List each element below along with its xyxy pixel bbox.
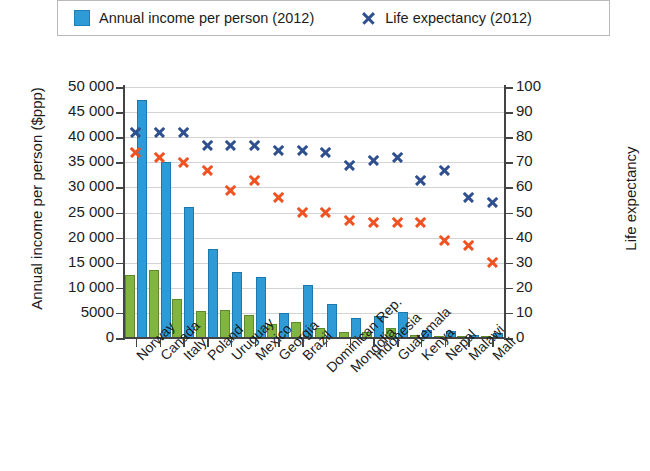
y-axis-left-line xyxy=(123,85,125,340)
y-axis-right-tick xyxy=(506,162,513,164)
y-axis-right-tick xyxy=(506,137,513,139)
marker-red-series xyxy=(153,151,166,164)
marker-red-series xyxy=(367,216,380,229)
y-axis-right-tick-label: 40 xyxy=(516,228,556,245)
y-axis-right-tick xyxy=(506,288,513,290)
y-axis-right-tick-label: 70 xyxy=(516,152,556,169)
marker-red-series xyxy=(224,183,237,196)
y-axis-left-tick-label: 35 000 xyxy=(34,152,114,169)
y-axis-left-tick-label: 40 000 xyxy=(34,127,114,144)
marker-life-expectancy xyxy=(153,126,166,139)
marker-life-expectancy xyxy=(296,143,309,156)
bar-green xyxy=(125,275,135,338)
marker-red-series xyxy=(201,163,214,176)
y-axis-left-tick xyxy=(116,313,123,315)
y-axis-left-tick-label: 45 000 xyxy=(34,102,114,119)
marker-life-expectancy xyxy=(248,138,261,151)
y-axis-left-tick xyxy=(116,187,123,189)
gridline xyxy=(124,213,504,214)
marker-life-expectancy xyxy=(319,146,332,159)
y-axis-right-tick-label: 10 xyxy=(516,303,556,320)
marker-life-expectancy xyxy=(343,158,356,171)
y-axis-left-tick-label: 10 000 xyxy=(34,278,114,295)
y-axis-right-tick-label: 80 xyxy=(516,127,556,144)
x-axis-tick xyxy=(350,339,352,347)
y-axis-right-tick-label: 60 xyxy=(516,177,556,194)
y-axis-left-tick xyxy=(116,213,123,215)
y-axis-right-tick-label: 0 xyxy=(516,328,556,345)
y-axis-left-tick-label: 20 000 xyxy=(34,228,114,245)
gridline xyxy=(124,187,504,188)
marker-red-series xyxy=(248,173,261,186)
marker-life-expectancy xyxy=(129,126,142,139)
y-axis-left-tick xyxy=(116,112,123,114)
y-axis-left-tick-label: 50 000 xyxy=(34,77,114,94)
y-axis-right-tick xyxy=(506,238,513,240)
y-axis-left-tick xyxy=(116,263,123,265)
y-axis-left-tick xyxy=(116,338,123,340)
marker-life-expectancy xyxy=(391,151,404,164)
marker-life-expectancy xyxy=(224,138,237,151)
marker-red-series xyxy=(272,191,285,204)
y-axis-right-tick-label: 50 xyxy=(516,203,556,220)
marker-life-expectancy xyxy=(367,153,380,166)
y-axis-right-tick-label: 30 xyxy=(516,253,556,270)
y-axis-left-tick-label: 0 xyxy=(34,328,114,345)
y-axis-right-tick xyxy=(506,213,513,215)
plot-wrapper: 50 00045 00040 00035 00030 00025 00020 0… xyxy=(0,0,650,471)
marker-red-series xyxy=(296,206,309,219)
y-axis-left-tick xyxy=(116,288,123,290)
marker-red-series xyxy=(319,206,332,219)
y-axis-right-tick-label: 90 xyxy=(516,102,556,119)
marker-life-expectancy xyxy=(272,143,285,156)
x-axis-tick xyxy=(160,339,162,347)
marker-life-expectancy xyxy=(201,138,214,151)
gridline xyxy=(124,288,504,289)
marker-red-series xyxy=(391,216,404,229)
y-axis-right-tick-label: 100 xyxy=(516,77,556,94)
bar-blue xyxy=(208,249,218,338)
chart-root: Annual income per person (2012) Life exp… xyxy=(0,0,650,471)
y-axis-right-tick xyxy=(506,313,513,315)
x-axis-tick xyxy=(326,339,328,347)
marker-red-series xyxy=(462,239,475,252)
marker-life-expectancy xyxy=(177,126,190,139)
y-axis-left-tick-label: 30 000 xyxy=(34,177,114,194)
y-axis-right-tick xyxy=(506,187,513,189)
y-axis-right-tick-label: 20 xyxy=(516,278,556,295)
y-axis-left-tick-label: 25 000 xyxy=(34,203,114,220)
bar-blue xyxy=(161,162,171,338)
x-axis-tick xyxy=(255,339,257,347)
marker-red-series xyxy=(177,156,190,169)
y-axis-right-tick xyxy=(506,87,513,89)
y-axis-left-tick-label: 15 000 xyxy=(34,253,114,270)
y-axis-left-tick xyxy=(116,87,123,89)
marker-life-expectancy xyxy=(438,163,451,176)
y-axis-left-tick-label: 5000 xyxy=(34,303,114,320)
y-axis-left-tick xyxy=(116,238,123,240)
marker-red-series xyxy=(414,216,427,229)
gridline xyxy=(124,87,504,88)
marker-life-expectancy xyxy=(414,173,427,186)
y-axis-right-tick xyxy=(506,263,513,265)
marker-red-series xyxy=(486,256,499,269)
y-axis-left-tick xyxy=(116,137,123,139)
marker-red-series xyxy=(343,214,356,227)
y-axis-right-tick xyxy=(506,112,513,114)
marker-life-expectancy xyxy=(486,196,499,209)
marker-red-series xyxy=(438,234,451,247)
x-axis-tick xyxy=(445,339,447,347)
gridline xyxy=(124,112,504,113)
marker-life-expectancy xyxy=(462,191,475,204)
y-axis-left-tick xyxy=(116,162,123,164)
plot-area xyxy=(124,87,504,338)
gridline xyxy=(124,263,504,264)
marker-red-series xyxy=(129,146,142,159)
